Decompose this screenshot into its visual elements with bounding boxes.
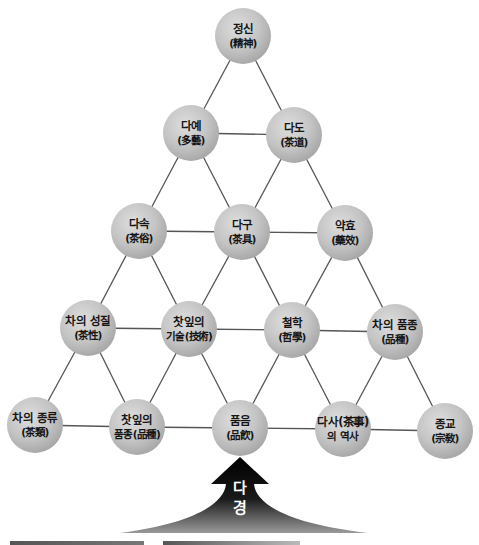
node-label-korean: 다예: [181, 119, 202, 133]
node-cha-seongjil: 차의 성질(茶性): [60, 300, 116, 356]
node-label-korean: 다도: [284, 121, 305, 135]
node-label-korean: 다속: [129, 217, 150, 231]
node-dasa-yeoksa: 다사(茶事)의 역사: [315, 401, 371, 457]
node-label-hanja: (多藝): [177, 133, 205, 147]
node-chatip-pumjong: 찻잎의품종(品種): [109, 399, 165, 455]
node-jonggyo: 종교(宗敎): [417, 403, 473, 459]
node-label-hanja: 의 역사: [327, 429, 359, 443]
node-dado: 다도(茶道): [266, 107, 322, 163]
node-label-hanja: (茶性): [74, 328, 102, 342]
node-cha-jongryu: 차의 종류(茶類): [7, 397, 63, 453]
node-label-korean: 차의 품종: [372, 318, 418, 332]
node-label-hanja: (哲學): [278, 330, 306, 344]
node-label-hanja: (茶道): [280, 135, 308, 149]
node-yakhyo: 약효(藥效): [317, 205, 373, 261]
node-jeongsin: 정신(精神): [215, 8, 271, 64]
node-cheolhak: 철학(哲學): [264, 302, 320, 358]
node-dagu: 다구(茶具): [214, 204, 270, 260]
node-label-hanja: (品種): [381, 332, 409, 346]
node-label-korean: 차의 종류: [12, 411, 58, 425]
node-label-hanja: 기술(技術): [166, 329, 213, 343]
arrow-label-gyeong: 경: [230, 498, 250, 518]
node-label-korean: 찻잎의: [173, 315, 205, 329]
node-label-korean: 찻잎의: [121, 413, 153, 427]
node-label-korean: 약효: [335, 219, 356, 233]
node-pumeum: 품음(品飮): [212, 400, 268, 456]
tea-concept-diagram: 정신(精神)다예(多藝)다도(茶道)다속(茶俗)다구(茶具)약효(藥效)차의 성…: [0, 0, 479, 545]
connector-lines: [0, 0, 479, 545]
node-label-korean: 다구: [232, 218, 253, 232]
node-label-hanja: (茶具): [228, 232, 256, 246]
node-label-hanja: (茶俗): [125, 231, 153, 245]
node-label-korean: 종교: [435, 417, 456, 431]
node-label-korean: 품음: [230, 414, 251, 428]
node-label-korean: 차의 성질: [65, 314, 111, 328]
bottom-bar-left: [10, 541, 144, 545]
node-label-hanja: 품종(品種): [114, 427, 161, 441]
node-label-korean: 철학: [282, 316, 303, 330]
node-chatip-gisul: 찻잎의기술(技術): [161, 301, 217, 357]
bottom-bar-right: [163, 541, 300, 545]
node-cha-pumjong: 차의 품종(品種): [367, 304, 423, 360]
node-label-hanja: (藥效): [331, 233, 359, 247]
node-dasok: 다속(茶俗): [111, 203, 167, 259]
node-label-hanja: (宗敎): [431, 431, 459, 445]
arrow-label-da: 다: [230, 478, 250, 498]
node-label-korean: 다사(茶事): [317, 415, 369, 429]
node-label-hanja: (精神): [229, 36, 257, 50]
node-label-hanja: (茶類): [21, 425, 49, 439]
node-label-korean: 정신: [233, 22, 254, 36]
node-daye: 다예(多藝): [163, 105, 219, 161]
node-label-hanja: (品飮): [226, 428, 254, 442]
